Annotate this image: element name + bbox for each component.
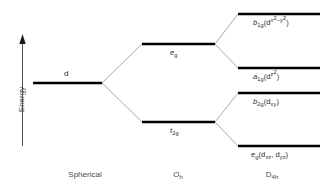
- orbital-close-eg-d4h: ): [286, 150, 289, 159]
- orbital-close-b1g: ): [286, 18, 289, 27]
- connector-d-eg: [102, 44, 142, 83]
- level-sub-t2g: 2g: [172, 130, 178, 136]
- level-label-d: d: [64, 69, 68, 78]
- level-sub-eg-d4h: g: [255, 154, 258, 160]
- orbital-sup-b1g: x2−y2: [271, 17, 287, 23]
- column-label-d4h-sub: 4h: [272, 174, 279, 180]
- diagram-canvas: [0, 0, 325, 190]
- orbital-sup-a1g: z2: [271, 71, 277, 77]
- crystal-field-splitting-diagram: Energy d eg t2g b1g(dx2−y2) a1g(dz2) b2g…: [0, 0, 325, 190]
- column-label-oh: Oh: [163, 170, 193, 179]
- orbital-open-a1g: (d: [264, 72, 271, 81]
- level-label-eg-d4h: eg(dxz, dyz): [251, 150, 288, 159]
- level-label-a1g: a1g(dz2): [253, 72, 279, 81]
- level-sub-b2g: 2g: [257, 101, 263, 107]
- orbital-close-b2g: ): [276, 97, 279, 106]
- level-label-t2g: t2g: [170, 126, 179, 135]
- orbital-open-b2g: (d: [264, 97, 271, 106]
- orbital-open-b1g: (d: [264, 18, 271, 27]
- level-label-b2g: b2g(dxy): [253, 97, 279, 106]
- orbital-sub2-eg-d4h: yz: [280, 154, 286, 160]
- level-label-eg: eg: [170, 48, 178, 57]
- level-sub-b1g: 1g: [257, 22, 263, 28]
- orbital-mid-eg-d4h: , d: [271, 150, 280, 159]
- orbital-sub1-eg-d4h: xz: [265, 154, 271, 160]
- connector-t2g-b2g: [215, 93, 238, 122]
- level-sub-a1g: 1g: [257, 76, 263, 82]
- energy-axis-label: Energy: [17, 70, 26, 130]
- connector-eg-a1g: [215, 44, 238, 68]
- column-label-d4h-main: D: [266, 170, 272, 179]
- column-label-oh-sub: h: [179, 174, 182, 180]
- column-label-spherical: Spherical: [55, 170, 115, 179]
- connector-t2g-eg: [215, 122, 238, 146]
- column-label-d4h: D4h: [257, 170, 287, 179]
- connector-d-t2g: [102, 83, 142, 122]
- orbital-sub-b2g: xy: [271, 101, 277, 107]
- level-label-b1g: b1g(dx2−y2): [253, 18, 289, 27]
- orbital-close-a1g: ): [277, 72, 280, 81]
- connector-eg-b1g: [215, 14, 238, 44]
- level-sub-eg: g: [174, 52, 177, 58]
